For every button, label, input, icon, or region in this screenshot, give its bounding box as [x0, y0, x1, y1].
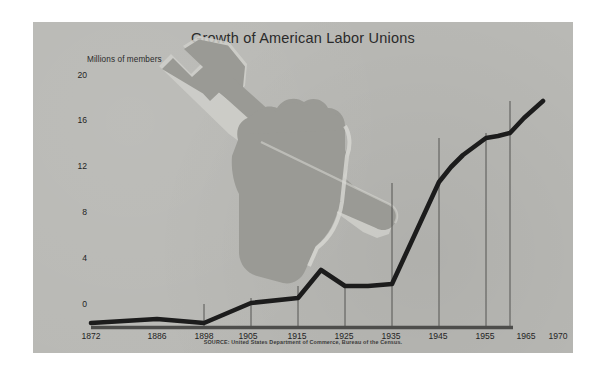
y-tick-16: 16 — [61, 115, 87, 125]
fist-holding-wrench-icon — [159, 36, 397, 283]
chart-panel: Growth of American Labor Unions Millions… — [33, 22, 573, 353]
chart-page: Growth of American Labor Unions Millions… — [0, 0, 606, 377]
y-tick-4: 4 — [61, 253, 87, 263]
y-tick-20: 20 — [61, 70, 87, 80]
y-tick-8: 8 — [61, 207, 87, 217]
y-tick-12: 12 — [61, 161, 87, 171]
source-note: SOURCE: United States Department of Comm… — [33, 339, 573, 345]
plot-area — [33, 22, 573, 353]
y-tick-0: 0 — [61, 299, 87, 309]
